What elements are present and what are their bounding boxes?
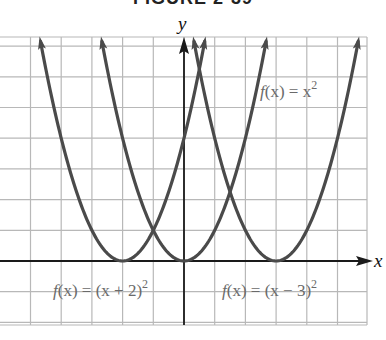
label-f-x-squared: f(x) = x2 — [260, 78, 317, 101]
x-axis-label: x — [373, 250, 383, 271]
label-f-x-minus-3-squared: f(x) = (x − 3)2 — [222, 277, 317, 300]
curves — [38, 37, 361, 261]
y-axis-label: y — [176, 13, 187, 34]
parabola-chart: x y f(x) = x2 f(x) = (x + 2)2 f(x) = (x … — [0, 0, 386, 340]
label-f-x-plus-2-squared: f(x) = (x + 2)2 — [53, 277, 148, 300]
